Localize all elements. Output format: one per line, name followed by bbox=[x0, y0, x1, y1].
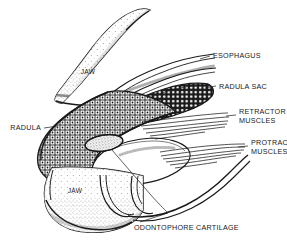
diagram-canvas: ESOPHAGUS RADULA SAC RETRACTOR MUSCLES P… bbox=[0, 0, 287, 243]
label-jaw-upper: JAW bbox=[81, 68, 96, 75]
label-odontophore-cartilage: ODONTOPHORE CARTILAGE bbox=[134, 223, 239, 232]
label-esophagus: ESOPHAGUS bbox=[213, 51, 261, 60]
label-retractor-muscles-line2: MUSCLES bbox=[239, 116, 276, 125]
label-protractor-muscles-line2: MUSCLES bbox=[251, 147, 287, 156]
label-retractor-muscles-line1: RETRACTOR bbox=[239, 107, 286, 116]
label-radula-sac: RADULA SAC bbox=[219, 82, 267, 91]
label-protractor-muscles-line1: PROTRACTOR bbox=[251, 138, 287, 147]
anatomy-diagram: ESOPHAGUS RADULA SAC RETRACTOR MUSCLES P… bbox=[0, 0, 287, 243]
label-radula: RADULA bbox=[10, 123, 41, 132]
label-jaw-lower: JAW bbox=[68, 187, 83, 194]
